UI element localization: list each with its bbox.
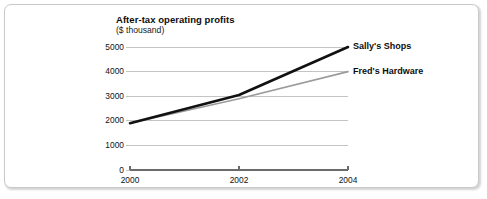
x-axis-tick-label: 2004 — [328, 175, 368, 185]
y-axis-tick-label: 4000 — [84, 66, 124, 76]
x-axis-tick-label: 2000 — [110, 175, 150, 185]
y-axis-tick-label: 0 — [84, 165, 124, 175]
y-axis-tick-label: 1000 — [84, 140, 124, 150]
line-chart-plot — [0, 0, 487, 199]
y-axis-tick-label: 2000 — [84, 115, 124, 125]
y-axis-tick-label: 5000 — [84, 42, 124, 52]
series-line — [130, 47, 348, 123]
y-axis-tick-label: 3000 — [84, 91, 124, 101]
series-label: Fred's Hardware — [353, 66, 423, 76]
x-axis-tick-label: 2002 — [219, 175, 259, 185]
series-label: Sally's Shops — [353, 41, 411, 51]
chart-screenshot: After-tax operating profits ($ thousand)… — [0, 0, 487, 199]
